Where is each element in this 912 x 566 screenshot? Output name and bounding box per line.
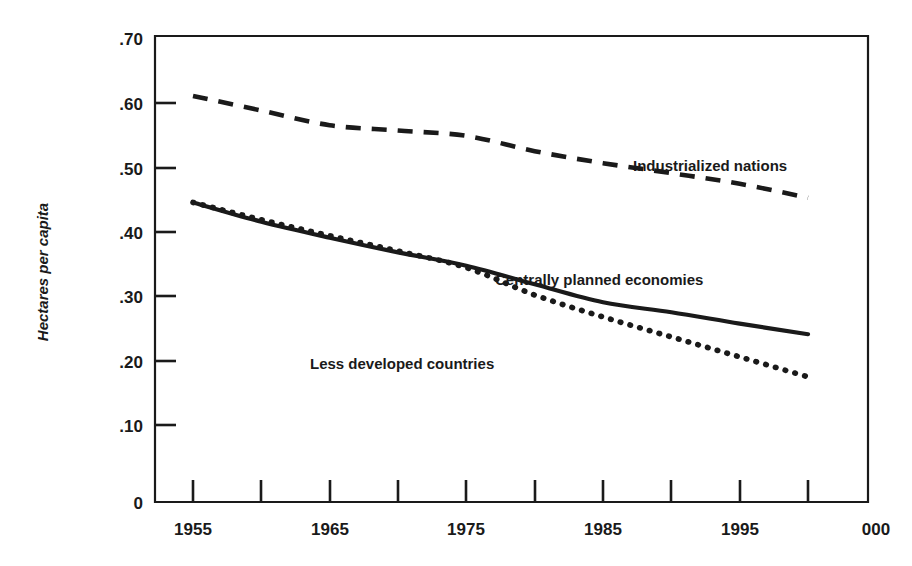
x-tick-label-1975: 1975 [447,520,485,539]
annotation-less-developed-countries: Less developed countries [310,355,494,372]
y-tick-label-70: .70 [119,30,143,49]
annotation-industrialized-nations: Industrialized nations [633,157,787,174]
line-chart: .70 .60 .50 .40 .30 .20 .10 0 Hectares p… [0,0,912,566]
y-tick-label-20: .20 [119,353,143,372]
chart-container: .70 .60 .50 .40 .30 .20 .10 0 Hectares p… [0,0,912,566]
y-tick-label-10: .10 [119,417,143,436]
y-tick-label-60: .60 [119,95,143,114]
chart-background [0,0,912,566]
y-tick-label-0: 0 [134,494,143,513]
y-tick-label-30: .30 [119,288,143,307]
x-tick-label-1965: 1965 [311,520,349,539]
x-tick-label-1995: 1995 [721,520,759,539]
x-tick-label-1955: 1955 [174,520,212,539]
x-tick-label-2000: 000 [862,520,890,539]
x-tick-label-1985: 1985 [584,520,622,539]
y-tick-label-50: .50 [119,160,143,179]
y-tick-label-40: .40 [119,224,143,243]
y-axis-title: Hectares per capita [34,203,51,341]
annotation-centrally-planned-economies: Centrally planned economies [495,271,703,288]
